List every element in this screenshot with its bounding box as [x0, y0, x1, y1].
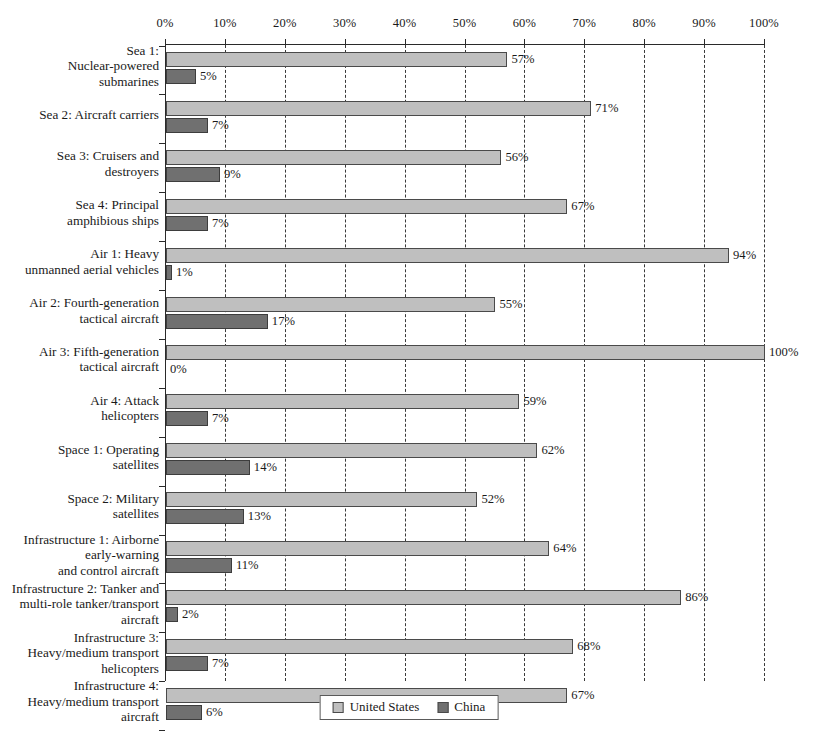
bar-united-states-7: [166, 394, 519, 409]
legend-swatch-icon-cn: [437, 702, 448, 713]
bar-value-united-states-8: 62%: [541, 443, 564, 458]
y-tick-4: [159, 241, 165, 242]
y-tick-end: [159, 730, 165, 731]
bar-value-china-0: 5%: [200, 69, 217, 84]
bar-value-china-8: 14%: [254, 460, 277, 475]
bar-china-2: [166, 167, 220, 182]
bar-united-states-0: [166, 52, 507, 67]
bar-china-13: [166, 705, 202, 720]
bar-china-1: [166, 118, 208, 133]
bar-value-china-4: 1%: [176, 265, 193, 280]
bar-china-7: [166, 411, 208, 426]
legend-item-united-states[interactable]: United States: [333, 699, 420, 715]
bar-value-united-states-13: 67%: [571, 688, 594, 703]
bar-united-states-6: [166, 345, 765, 360]
bar-value-united-states-5: 55%: [499, 297, 522, 312]
bar-united-states-11: [166, 590, 681, 605]
bar-value-united-states-0: 57%: [511, 52, 534, 67]
y-tick-10: [159, 535, 165, 536]
bar-value-china-9: 13%: [248, 509, 271, 524]
y-tick-5: [159, 290, 165, 291]
bar-united-states-4: [166, 248, 729, 263]
bar-china-12: [166, 656, 208, 671]
bar-united-states-3: [166, 199, 567, 214]
bar-value-united-states-3: 67%: [571, 199, 594, 214]
bar-china-0: [166, 69, 196, 84]
bar-value-united-states-1: 71%: [595, 101, 618, 116]
bar-china-10: [166, 558, 232, 573]
legend-label-1: China: [454, 699, 485, 715]
legend-label-0: United States: [350, 699, 420, 715]
bar-value-china-11: 2%: [182, 607, 199, 622]
bar-united-states-1: [166, 101, 591, 116]
y-tick-9: [159, 486, 165, 487]
y-tick-2: [159, 143, 165, 144]
bar-united-states-8: [166, 443, 537, 458]
bar-value-china-13: 6%: [206, 705, 223, 720]
bar-value-united-states-2: 56%: [505, 150, 528, 165]
bar-value-china-5: 17%: [272, 314, 295, 329]
y-tick-1: [159, 94, 165, 95]
bar-value-china-6: 0%: [170, 362, 187, 377]
bar-value-united-states-11: 86%: [685, 590, 708, 605]
bar-china-5: [166, 314, 268, 329]
bar-value-united-states-4: 94%: [733, 248, 756, 263]
bar-china-4: [166, 265, 172, 280]
y-tick-8: [159, 437, 165, 438]
legend-swatch-icon-us: [333, 702, 344, 713]
bar-chart: 0%10%20%30%40%50%60%70%80%90%100% Sea 1:…: [0, 0, 818, 738]
bar-china-3: [166, 216, 208, 231]
y-tick-6: [159, 339, 165, 340]
bar-united-states-2: [166, 150, 501, 165]
bar-china-9: [166, 509, 244, 524]
bar-united-states-10: [166, 541, 549, 556]
bar-value-china-7: 7%: [212, 411, 229, 426]
y-tick-3: [159, 192, 165, 193]
bar-value-china-3: 7%: [212, 216, 229, 231]
bar-united-states-9: [166, 492, 477, 507]
bar-value-china-2: 9%: [224, 167, 241, 182]
y-tick-13: [159, 681, 165, 682]
bar-china-8: [166, 460, 250, 475]
bar-china-11: [166, 607, 178, 622]
bar-value-china-1: 7%: [212, 118, 229, 133]
bar-united-states-12: [166, 639, 573, 654]
bars-layer: 57%5%71%7%56%9%67%7%94%1%55%17%100%0%59%…: [0, 0, 818, 738]
legend-item-china[interactable]: China: [437, 699, 485, 715]
bar-value-china-10: 11%: [236, 558, 259, 573]
y-tick-0: [159, 46, 165, 47]
bar-value-united-states-12: 68%: [577, 639, 600, 654]
y-tick-11: [159, 583, 165, 584]
chart-legend: United StatesChina: [320, 695, 499, 720]
y-tick-7: [159, 388, 165, 389]
bar-value-united-states-6: 100%: [769, 345, 798, 360]
bar-value-united-states-7: 59%: [523, 394, 546, 409]
bar-value-united-states-9: 52%: [481, 492, 504, 507]
bar-value-china-12: 7%: [212, 656, 229, 671]
bar-united-states-5: [166, 297, 495, 312]
y-tick-12: [159, 632, 165, 633]
bar-value-united-states-10: 64%: [553, 541, 576, 556]
